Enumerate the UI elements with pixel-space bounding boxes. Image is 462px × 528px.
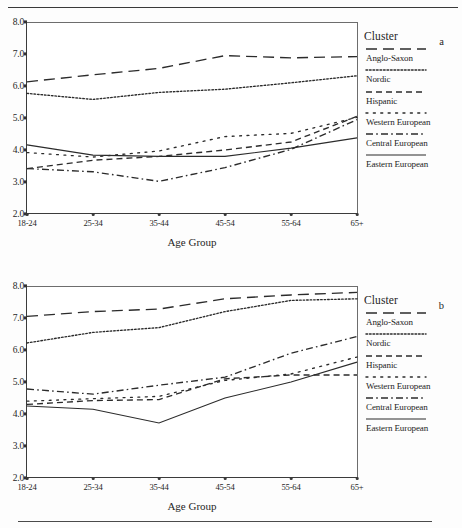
legend-label: Nordic (366, 74, 462, 85)
x-tick-mark (356, 477, 359, 480)
legend-entry[interactable]: Anglo-Saxon (362, 44, 462, 64)
x-tick-mark (158, 477, 161, 480)
plot-area-b: 2.03.04.05.06.07.08.0 18-2425-3435-4445-… (26, 286, 358, 478)
y-tick-label: 3.0 (13, 177, 24, 187)
y-tick-label: 4.0 (13, 409, 24, 419)
legend-entry[interactable]: Anglo-Saxon (362, 308, 462, 328)
y-tick-label: 5.0 (13, 113, 24, 123)
y-tick-label: 6.0 (13, 345, 24, 355)
legend-line-swatch (365, 129, 427, 138)
y-tick-label: 3.0 (13, 441, 24, 451)
series-lines-b (26, 286, 358, 478)
y-tick-mark (24, 180, 27, 183)
y-tick-mark (24, 380, 27, 383)
y-tick-label: 7.0 (13, 313, 24, 323)
legend-entry[interactable]: Hispanic (362, 351, 462, 371)
x-tick-mark (224, 477, 227, 480)
x-tick-label: 18-24 (17, 218, 36, 228)
legend-line-swatch (365, 87, 427, 96)
y-tick-mark (24, 348, 27, 351)
chart-panel-a: a 2.03.04.05.06.07.08.0 18-2425-3435-444… (0, 14, 462, 264)
x-tick-mark (290, 477, 293, 480)
y-tick-label: 5.0 (13, 377, 24, 387)
legend-entries-a: Anglo-SaxonNordicHispanicWestern Europea… (362, 44, 462, 171)
page-rule-top (8, 7, 458, 8)
legend-label: Central European (366, 402, 462, 413)
legend-entry[interactable]: Nordic (362, 329, 462, 349)
plot-area-a: 2.03.04.05.06.07.08.0 18-2425-3435-4445-… (26, 22, 358, 214)
legend-label: Hispanic (366, 96, 462, 107)
x-tick-label: 25-34 (83, 218, 102, 228)
x-tick-label: 45-54 (215, 482, 234, 492)
y-tick-mark (24, 284, 27, 287)
x-tick-label: 35-44 (149, 218, 168, 228)
y-tick-mark (24, 84, 27, 87)
legend-line-swatch (365, 65, 427, 74)
x-tick-mark (158, 213, 161, 216)
x-tick-mark (290, 213, 293, 216)
legend-line-swatch (365, 351, 427, 360)
legend-line-swatch (365, 308, 427, 317)
legend-entry[interactable]: Nordic (362, 65, 462, 85)
x-tick-mark (26, 213, 29, 216)
y-tick-label: 4.0 (13, 145, 24, 155)
legend-entry[interactable]: Hispanic (362, 87, 462, 107)
figure-page: a 2.03.04.05.06.07.08.0 18-2425-3435-444… (0, 0, 462, 528)
legend-b: Cluster Anglo-SaxonNordicHispanicWestern… (362, 294, 462, 436)
y-tick-mark (24, 20, 27, 23)
x-tick-mark (356, 213, 359, 216)
x-tick-mark (224, 213, 227, 216)
y-tick-mark (24, 52, 27, 55)
legend-label: Central European (366, 138, 462, 149)
x-axis-title-b: Age Group (26, 500, 358, 512)
series-line (27, 56, 357, 82)
legend-line-swatch (365, 393, 427, 402)
legend-line-swatch (365, 329, 427, 338)
x-tick-label: 65+ (351, 482, 364, 492)
legend-line-swatch (365, 414, 427, 423)
legend-label: Anglo-Saxon (366, 53, 462, 64)
legend-label: Western European (366, 117, 462, 128)
series-line (27, 375, 357, 404)
legend-a: Cluster Anglo-SaxonNordicHispanicWestern… (362, 30, 462, 172)
legend-label: Nordic (366, 338, 462, 349)
legend-label: Hispanic (366, 360, 462, 371)
y-tick-mark (24, 444, 27, 447)
legend-label: Anglo-Saxon (366, 317, 462, 328)
legend-entry[interactable]: Western European (362, 108, 462, 128)
x-tick-label: 55-64 (281, 218, 300, 228)
legend-title-b: Cluster (364, 294, 462, 306)
y-tick-label: 7.0 (13, 49, 24, 59)
y-tick-mark (24, 412, 27, 415)
series-lines-a (26, 22, 358, 214)
legend-title-a: Cluster (364, 30, 462, 42)
series-line (27, 357, 357, 401)
x-tick-label: 65+ (351, 218, 364, 228)
x-tick-label: 25-34 (83, 482, 102, 492)
legend-entries-b: Anglo-SaxonNordicHispanicWestern Europea… (362, 308, 462, 435)
series-line (27, 299, 357, 343)
legend-entry[interactable]: Eastern European (362, 150, 462, 170)
y-tick-mark (24, 148, 27, 151)
legend-label: Western European (366, 381, 462, 392)
series-line (27, 117, 357, 157)
x-tick-label: 55-64 (281, 482, 300, 492)
legend-entry[interactable]: Central European (362, 393, 462, 413)
x-tick-label: 35-44 (149, 482, 168, 492)
legend-entry[interactable]: Eastern European (362, 414, 462, 434)
series-line (27, 337, 357, 395)
x-tick-label: 45-54 (215, 218, 234, 228)
y-tick-label: 8.0 (13, 17, 24, 27)
legend-line-swatch (365, 150, 427, 159)
y-tick-mark (24, 316, 27, 319)
x-tick-label: 18-24 (17, 482, 36, 492)
legend-entry[interactable]: Central European (362, 129, 462, 149)
y-tick-label: 6.0 (13, 81, 24, 91)
legend-entry[interactable]: Western European (362, 372, 462, 392)
legend-line-swatch (365, 44, 427, 53)
legend-label: Eastern European (366, 159, 462, 170)
chart-panel-b: b 2.03.04.05.06.07.08.0 18-2425-3435-444… (0, 278, 462, 528)
x-axis-title-a: Age Group (26, 236, 358, 248)
x-tick-mark (92, 213, 95, 216)
legend-label: Eastern European (366, 423, 462, 434)
